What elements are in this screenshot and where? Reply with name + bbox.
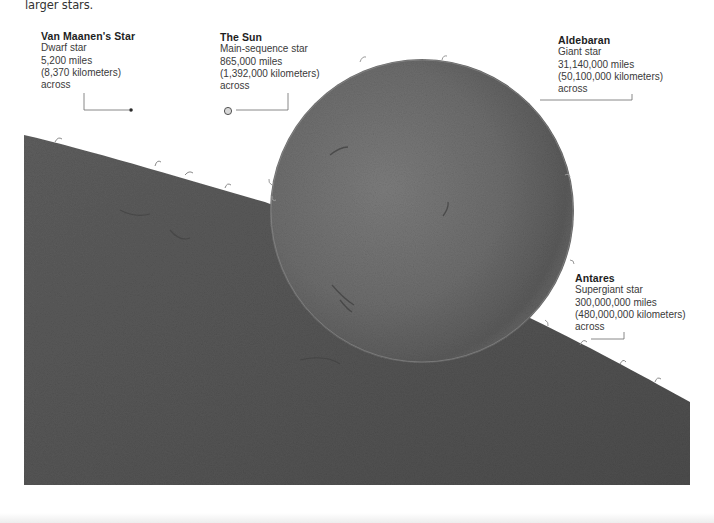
van-maanen-marker: [84, 93, 133, 112]
star-name: Aldebaran: [558, 34, 663, 46]
star-name: Van Maanen's Star: [41, 30, 135, 42]
star-suffix: across: [575, 321, 686, 333]
aldebaran-sphere: [269, 56, 574, 363]
star-suffix: across: [41, 79, 135, 91]
star-type: Supergiant star: [575, 284, 686, 296]
star-kilometers: (480,000,000 kilometers): [575, 309, 686, 321]
star-miles: 31,140,000 miles: [558, 59, 663, 71]
star-kilometers: (50,100,000 kilometers): [558, 71, 663, 83]
label-the-sun: The Sun Main-sequence star 865,000 miles…: [220, 31, 320, 92]
star-type: Dwarf star: [41, 42, 135, 54]
star-name: The Sun: [220, 31, 320, 43]
page-bottom-edge: [0, 513, 714, 523]
star-miles: 300,000,000 miles: [575, 297, 686, 309]
star-type: Giant star: [558, 46, 663, 58]
label-aldebaran: Aldebaran Giant star 31,140,000 miles (5…: [558, 34, 663, 95]
star-kilometers: (8,370 kilometers): [41, 67, 135, 79]
star-suffix: across: [558, 83, 663, 95]
star-miles: 865,000 miles: [220, 56, 320, 68]
star-kilometers: (1,392,000 kilometers): [220, 68, 320, 80]
star-type: Main-sequence star: [220, 43, 320, 55]
sun-marker: [224, 93, 288, 115]
label-van-maanen: Van Maanen's Star Dwarf star 5,200 miles…: [41, 30, 135, 91]
star-miles: 5,200 miles: [41, 55, 135, 67]
label-antares: Antares Supergiant star 300,000,000 mile…: [575, 272, 686, 333]
star-name: Antares: [575, 272, 686, 284]
star-suffix: across: [220, 80, 320, 92]
